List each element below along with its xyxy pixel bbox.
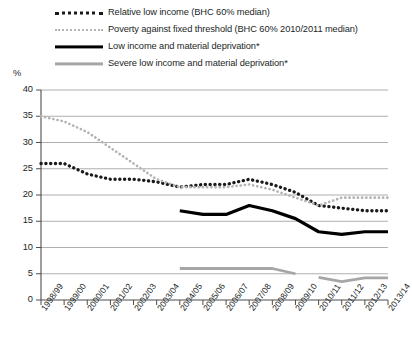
- legend-swatch-dotted-black-icon: [55, 8, 103, 18]
- legend-label: Poverty against fixed threshold (BHC 60%…: [108, 24, 358, 35]
- y-axis-tick-label: 35: [11, 110, 33, 120]
- legend-item-relative-low-income: Relative low income (BHC 60% median): [55, 4, 405, 21]
- legend-item-low-income-material-deprivation: Low income and material deprivation*: [55, 38, 405, 55]
- series-line: [180, 269, 296, 274]
- y-axis-tick-label: 0: [11, 294, 33, 304]
- legend-swatch-solid-black-icon: [55, 42, 103, 52]
- legend-label: Relative low income (BHC 60% median): [108, 7, 270, 18]
- chart-legend: Relative low income (BHC 60% median) Pov…: [55, 4, 405, 72]
- legend-swatch-solid-gray-icon: [55, 59, 103, 69]
- y-axis-tick-label: 30: [11, 137, 33, 147]
- legend-swatch-dotted-gray-icon: [55, 25, 103, 35]
- y-axis-unit-label: %: [13, 68, 21, 78]
- legend-item-severe-low-income-material-deprivation: Severe low income and material deprivati…: [55, 55, 405, 72]
- legend-label: Severe low income and material deprivati…: [108, 58, 288, 69]
- y-axis-tick-label: 20: [11, 189, 33, 199]
- legend-item-poverty-fixed-threshold: Poverty against fixed threshold (BHC 60%…: [55, 21, 405, 38]
- y-axis-tick-label: 15: [11, 215, 33, 225]
- legend-label: Low income and material deprivation*: [108, 41, 259, 52]
- y-axis-tick-label: 25: [11, 163, 33, 173]
- series-line: [41, 116, 388, 205]
- y-axis-tick-label: 40: [11, 84, 33, 94]
- series-line: [319, 277, 388, 281]
- y-axis-tick-label: 5: [11, 268, 33, 278]
- y-axis-tick-label: 10: [11, 242, 33, 252]
